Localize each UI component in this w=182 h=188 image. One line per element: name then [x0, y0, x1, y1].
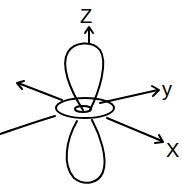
- x-axis-arrow: [107, 118, 163, 143]
- orbital-diagram: Z y X: [0, 0, 182, 188]
- z-axis-arrow: [85, 27, 93, 43]
- y-axis-label: y: [162, 79, 172, 99]
- negative-x-axis: [0, 116, 55, 134]
- back-axis-arrow: [17, 81, 62, 100]
- bottom-lobe: [67, 120, 105, 183]
- x-axis-label: X: [166, 140, 179, 160]
- y-axis-arrow: [100, 86, 159, 103]
- orbital-drawing: [0, 0, 182, 188]
- z-axis-label: Z: [80, 6, 92, 26]
